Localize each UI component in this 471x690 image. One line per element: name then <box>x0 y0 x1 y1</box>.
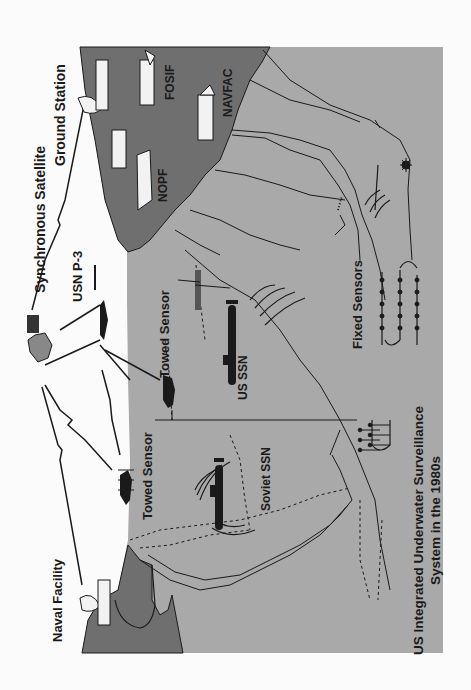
label-navfac: NAVFAC <box>221 68 235 117</box>
diagram-title-line1: US Integrated Underwater Surveillance <box>411 405 426 655</box>
label-fixed-sensors: Fixed Sensors <box>350 260 365 349</box>
label-naval-facility: Naval Facility <box>50 558 65 642</box>
surveillance-diagram: Synchronous Satellite Ground Station USN… <box>0 0 471 690</box>
label-ground-station: Ground Station <box>52 64 68 166</box>
satellite-icon <box>27 315 52 362</box>
label-nopf: NOPF <box>156 169 170 202</box>
label-towed-sensor-2: Towed Sensor <box>157 290 172 378</box>
label-fosif: FOSIF <box>163 65 177 100</box>
label-usn-p3: USN P-3 <box>70 251 85 302</box>
nopf-building-icon <box>137 150 152 210</box>
label-us-ssn: US SSN <box>236 355 250 400</box>
diagram-title-line2: System in the 1980s <box>428 456 443 585</box>
label-soviet-ssn: Soviet SSN <box>259 447 273 511</box>
label-synchronous-satellite: Synchronous Satellite <box>32 146 48 293</box>
label-towed-sensor-1: Towed Sensor <box>140 432 155 520</box>
